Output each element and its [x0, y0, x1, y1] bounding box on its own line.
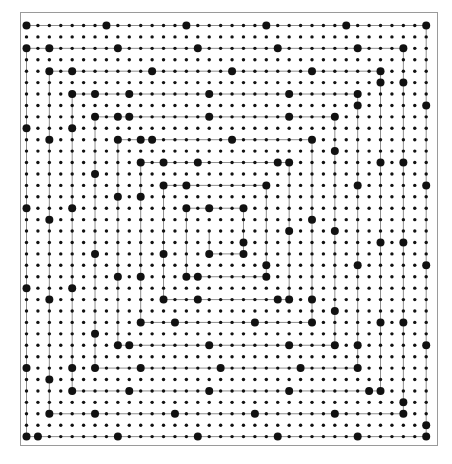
figure-root [0, 0, 452, 464]
spiral-plot-canvas [0, 0, 452, 464]
